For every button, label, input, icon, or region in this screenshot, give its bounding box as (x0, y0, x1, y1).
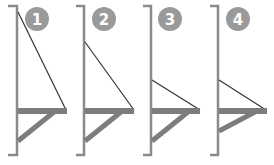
wall-bracket-1 (8, 6, 17, 155)
number-label-2: 2 (99, 11, 109, 29)
shelf-2 (85, 108, 134, 114)
wall-bracket-2 (76, 6, 84, 155)
wall-bracket-4 (210, 6, 218, 155)
shelf-3 (152, 108, 200, 114)
shelf-bracket-diagram: 1 2 3 4 (0, 0, 274, 165)
wall-bracket-3 (143, 6, 151, 155)
shelf-1 (18, 108, 67, 114)
number-label-4: 4 (233, 11, 243, 29)
tie-line-4 (219, 80, 266, 110)
tie-line-3 (152, 80, 200, 110)
brace-4 (219, 112, 255, 131)
panel-4: 4 (210, 6, 267, 155)
number-label-1: 1 (32, 11, 42, 29)
brace-1 (18, 112, 54, 141)
brace-3 (152, 112, 188, 141)
panel-3: 3 (143, 6, 200, 155)
shelf-4 (219, 108, 267, 114)
panel-1: 1 (8, 6, 67, 155)
panel-2: 2 (76, 6, 134, 155)
number-label-3: 3 (165, 11, 175, 29)
tie-line-2 (85, 42, 134, 110)
brace-2 (85, 112, 121, 141)
